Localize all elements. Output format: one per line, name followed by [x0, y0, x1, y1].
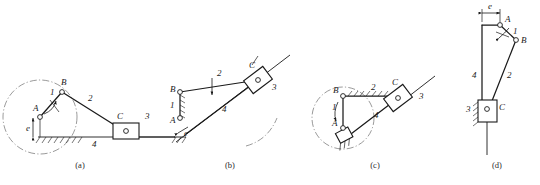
joint-label-A-c: A — [331, 118, 338, 128]
guide-hatching-d — [473, 102, 478, 126]
ground-hatching-a — [36, 137, 82, 143]
joint-label-B-c: B — [333, 85, 339, 95]
joint-C-pin-c — [396, 96, 401, 101]
joint-A-pin-b — [178, 116, 183, 121]
joint-B-pin-a — [60, 90, 65, 95]
caption-d: (d) — [492, 160, 502, 170]
link-label-1-b: 1 — [170, 100, 175, 110]
rotation-tick-d — [496, 32, 509, 37]
joint-label-B-d: B — [521, 35, 527, 45]
link-label-2-a: 2 — [88, 93, 93, 103]
joint-label-C-b: C — [249, 60, 256, 70]
link-2-coupler-d — [490, 40, 516, 106]
rotation-tick-a — [50, 100, 59, 112]
link-label-3-b: 3 — [271, 82, 277, 92]
link-label-1-d: 1 — [513, 26, 518, 36]
joint-A-pin-c — [341, 126, 346, 131]
joint-C-pin-d — [485, 107, 490, 112]
joint-label-A-a: A — [32, 103, 39, 113]
dimension-label-e-d: e — [488, 1, 492, 11]
joint-C-pin-b — [256, 78, 261, 83]
crank-path-arc-b — [246, 118, 277, 146]
joint-A-pin-d — [498, 23, 503, 28]
joint-label-C-d: C — [499, 102, 506, 112]
joint-B-pin-d — [514, 38, 519, 43]
joint-A-pin-a — [38, 115, 43, 120]
link-label-1-c: 1 — [332, 102, 337, 112]
link-label-2-b: 2 — [217, 68, 222, 78]
joint-B-pin-b — [178, 90, 183, 95]
dimension-label-e-a: e — [26, 123, 30, 133]
caption-b: (b) — [225, 160, 235, 170]
panel-d: e A B C — [465, 1, 527, 170]
joint-label-C-c: C — [392, 77, 399, 87]
joint-label-A-d: A — [504, 14, 511, 24]
joint-B-pin-c — [341, 94, 346, 99]
dimension-label-e-b: e — [184, 128, 188, 138]
link-label-3-a: 3 — [144, 111, 150, 121]
coupler-hatching-c — [348, 91, 388, 96]
rotation-arrow-a — [44, 101, 56, 114]
link-label-4-c: 4 — [374, 110, 379, 120]
figure-container: e A B C 1 2 3 4 (a) — [0, 0, 540, 185]
link-label-3-d: 3 — [465, 104, 471, 114]
panel-b: e A B C 1 2 3 4 (b) — [169, 55, 290, 170]
panel-c: A B C 1 2 3 4 (c) — [312, 76, 435, 170]
joint-C-pin-a — [124, 129, 129, 134]
link-label-4-d: 4 — [472, 70, 477, 80]
panel-a: e A B C 1 2 3 4 (a) — [3, 77, 175, 170]
joint-label-C-a: C — [117, 111, 124, 121]
joint-label-B-b: B — [170, 84, 176, 94]
caption-c: (c) — [370, 160, 380, 170]
link-label-1-a: 1 — [50, 87, 55, 97]
joint-label-A-b: A — [169, 115, 176, 125]
mechanism-figure: e A B C 1 2 3 4 (a) — [0, 0, 540, 185]
link-label-4-a: 4 — [92, 139, 97, 149]
link-label-2-d: 2 — [507, 70, 512, 80]
link-label-2-c: 2 — [371, 82, 376, 92]
crank-hatching-b — [180, 95, 185, 118]
caption-a: (a) — [75, 160, 85, 170]
link-label-4-b: 4 — [222, 104, 227, 114]
joint-label-B-a: B — [61, 77, 67, 87]
link-label-3-c: 3 — [418, 91, 424, 101]
